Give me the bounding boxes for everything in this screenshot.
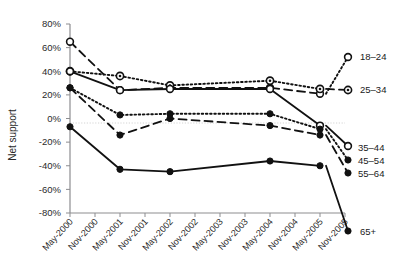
series-point (317, 132, 323, 138)
series-point (267, 158, 273, 164)
series-point (117, 132, 123, 138)
net-support-line-chart: Net support 80%60%40%20%0%-20%-40%-60%-8… (0, 0, 397, 280)
legend-label: 25–34 (360, 84, 386, 95)
legend-label: 45–54 (358, 155, 384, 166)
series-point (167, 86, 174, 93)
series-point (167, 169, 173, 175)
legend-marker (345, 157, 351, 163)
legend-item-1: 18–24 (360, 51, 386, 62)
series-point (117, 112, 123, 118)
legend-label: 18–24 (360, 51, 386, 62)
legend-item-3: 35–44 (358, 142, 384, 153)
series-point (269, 79, 272, 82)
legend-marker (347, 89, 350, 92)
y-axis-tick-label: -40% (39, 160, 62, 171)
y-axis-tick-label: 20% (42, 89, 62, 100)
series-point (67, 38, 74, 45)
series-point (117, 87, 124, 94)
y-axis-tick-label: 40% (42, 66, 62, 77)
legend-item-4: 45–54 (358, 155, 384, 166)
legend-item-2: 25–34 (360, 84, 386, 95)
y-axis-tick-label: -60% (39, 184, 62, 195)
series-point (67, 124, 73, 130)
legend-label: 35–44 (358, 142, 384, 153)
legend-marker (345, 143, 352, 150)
series-point (167, 115, 173, 121)
legend-item-6: 65+ (360, 226, 377, 237)
y-axis-tick-label: 0% (47, 113, 61, 124)
series-point (317, 163, 323, 169)
y-axis-tick-label: 80% (42, 18, 62, 29)
legend-marker (345, 228, 351, 234)
series-point (267, 111, 273, 117)
y-axis-tick-label: 60% (42, 42, 62, 53)
legend-marker (345, 54, 352, 61)
chart-container: Net support 80%60%40%20%0%-20%-40%-60%-8… (0, 0, 397, 280)
y-axis-tick-label: -20% (39, 136, 62, 147)
series-point (317, 126, 323, 132)
y-axis-title: Net support (7, 109, 18, 161)
series-point (267, 86, 274, 93)
series-point (67, 85, 73, 91)
series-point (117, 166, 123, 172)
series-point (319, 88, 322, 91)
series-point (119, 75, 122, 78)
y-axis-tick-label: -80% (39, 207, 62, 218)
legend-label: 65+ (360, 226, 377, 237)
series-point (67, 68, 74, 75)
legend-item-5: 55–64 (358, 168, 384, 179)
legend-marker (345, 170, 351, 176)
series-point (267, 122, 273, 128)
legend-label: 55–64 (358, 168, 384, 179)
